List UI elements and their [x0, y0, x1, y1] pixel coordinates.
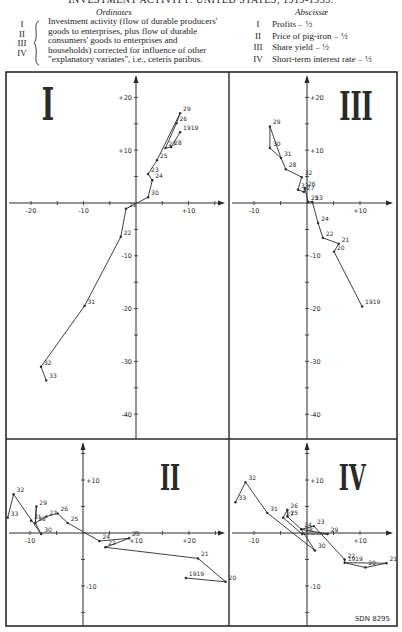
- point-label: 30: [151, 189, 159, 196]
- y-tick-label: +10: [118, 147, 132, 155]
- point-label: 20: [229, 574, 237, 581]
- data-point: [164, 147, 166, 149]
- data-point: [170, 146, 172, 148]
- data-point: [35, 505, 37, 507]
- x-axis-arrow-icon: [218, 531, 225, 536]
- point-label: 23: [317, 518, 325, 525]
- y-tick-label: -10: [121, 252, 132, 260]
- data-point: [156, 159, 158, 161]
- data-point: [282, 516, 284, 518]
- x-tick-label: +10: [129, 537, 143, 545]
- panel-iv: -10+10+10-10IV19192021222324252627282930…: [232, 442, 397, 626]
- panel-numeral: II: [160, 456, 180, 498]
- point-label: 27: [49, 509, 57, 516]
- point-label: 25: [71, 515, 79, 522]
- point-label: 21: [201, 550, 209, 557]
- data-point: [266, 512, 268, 514]
- point-label: 30: [273, 140, 281, 147]
- data-point: [343, 561, 345, 563]
- data-point: [179, 131, 181, 133]
- data-point: [300, 528, 302, 530]
- point-label: 28: [289, 161, 297, 168]
- point-label: 21: [342, 236, 350, 243]
- data-point: [12, 493, 14, 495]
- data-point: [301, 176, 303, 178]
- y-axis-arrow-icon: [305, 75, 310, 83]
- point-label: 20: [368, 559, 376, 566]
- data-point: [285, 168, 287, 170]
- point-label: 24: [155, 172, 163, 179]
- y-axis-arrow-icon: [305, 442, 310, 450]
- data-point: [151, 179, 153, 181]
- data-point: [280, 157, 282, 159]
- point-label: 26: [61, 505, 69, 512]
- point-label: 26: [179, 115, 187, 122]
- point-label: 22: [124, 229, 132, 236]
- x-axis-arrow-icon: [386, 201, 393, 206]
- data-point: [7, 516, 9, 518]
- point-label: 21: [129, 201, 137, 208]
- x-tick-label: +10: [353, 207, 367, 215]
- y-tick-label: -30: [310, 358, 321, 366]
- y-tick-label: +20: [310, 94, 324, 102]
- data-point: [34, 522, 36, 524]
- point-label: 1919: [183, 124, 198, 131]
- point-label: 1919: [365, 298, 380, 305]
- y-tick-label: -30: [121, 358, 132, 366]
- panel-iii: -10+10+20+10-10-20-30-40III1919202122232…: [232, 75, 393, 439]
- point-label: 32: [44, 359, 52, 366]
- point-label: 33: [49, 372, 57, 379]
- x-tick-label: +10: [353, 537, 367, 545]
- data-point: [364, 566, 366, 568]
- data-point: [179, 112, 181, 114]
- x-tick-label: +10: [182, 207, 196, 215]
- panel-ii: -10+10+20+10-10II19192021222324252627282…: [7, 442, 237, 626]
- data-point: [83, 305, 85, 307]
- point-label: 21: [390, 555, 398, 562]
- point-label: 24: [102, 533, 110, 540]
- point-label: 27: [286, 510, 294, 517]
- x-tick-label: -10: [249, 537, 260, 545]
- point-label: 29: [331, 526, 339, 533]
- point-label: 30: [44, 526, 52, 533]
- point-label: 31: [88, 298, 96, 305]
- data-point: [125, 208, 127, 210]
- data-point: [322, 237, 324, 239]
- point-label: 26: [290, 502, 298, 509]
- data-point: [326, 533, 328, 535]
- point-label: 33: [301, 182, 309, 189]
- y-tick-label: +10: [310, 477, 324, 485]
- y-tick-label: +10: [86, 477, 100, 485]
- panel-numeral: IV: [339, 456, 367, 498]
- point-label: 30: [318, 542, 326, 549]
- scatter-panels: -20-10+10+20+10-10-20-30-40I191921222324…: [0, 0, 402, 632]
- data-point: [120, 236, 122, 238]
- data-point: [297, 189, 299, 191]
- point-label: 24: [321, 215, 329, 222]
- data-point: [317, 222, 319, 224]
- point-label: 1919: [189, 570, 204, 577]
- y-axis-arrow-icon: [81, 442, 86, 450]
- point-label: 22: [348, 552, 356, 559]
- x-tick-label: -20: [26, 207, 37, 215]
- point-label: 28: [305, 526, 313, 533]
- data-point: [269, 125, 271, 127]
- point-label: 33: [238, 494, 246, 501]
- data-point: [30, 520, 32, 522]
- y-tick-label: -20: [121, 305, 132, 313]
- point-label: 32: [249, 474, 257, 481]
- y-tick-label: -10: [310, 583, 321, 591]
- point-label: 31: [270, 505, 278, 512]
- point-label: 31: [34, 513, 42, 520]
- data-point: [40, 533, 42, 535]
- data-point: [385, 562, 387, 564]
- data-point: [147, 196, 149, 198]
- y-tick-label: -10: [310, 252, 321, 260]
- point-label: 22: [108, 539, 116, 546]
- data-point: [333, 250, 335, 252]
- data-point: [66, 522, 68, 524]
- y-tick-label: -40: [310, 411, 321, 419]
- point-label: 28: [174, 139, 182, 146]
- x-tick-label: -10: [78, 207, 89, 215]
- data-point: [175, 122, 177, 124]
